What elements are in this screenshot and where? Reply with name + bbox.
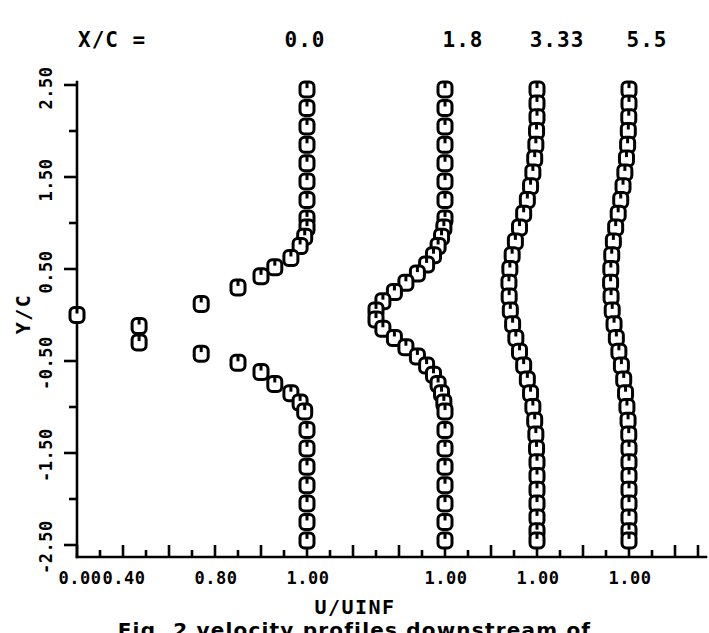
- square-u-marker: [438, 82, 452, 97]
- x-tick-label-2: 0.80: [195, 568, 238, 588]
- data-markers: [70, 82, 636, 548]
- square-u-marker: [438, 478, 452, 493]
- square-u-marker: [300, 156, 314, 171]
- square-u-marker: [438, 423, 452, 438]
- figure-wake-velocity-profiles: X/C = 0.0 1.8 3.33 5.5: [0, 0, 709, 633]
- square-u-marker: [132, 335, 146, 350]
- y-tick-label-2.50: 2.50: [36, 66, 56, 110]
- square-u-marker: [231, 280, 245, 295]
- square-u-marker: [530, 533, 544, 548]
- square-u-marker: [300, 459, 314, 474]
- square-u-marker: [438, 441, 452, 456]
- square-u-marker: [438, 404, 452, 419]
- square-u-marker: [194, 346, 208, 361]
- profile-series-2: [502, 82, 544, 548]
- y-tick-label-1.50: 1.50: [36, 158, 56, 202]
- figure-caption: Fig. 2 velocity profiles downstream of: [0, 618, 709, 633]
- profile-series-3: [604, 82, 636, 548]
- square-u-marker: [300, 533, 314, 548]
- square-u-marker: [298, 404, 312, 419]
- square-u-marker: [300, 82, 314, 97]
- y-axis-title: Y/C: [11, 284, 35, 344]
- y-tick-label--0.50: -0.50: [36, 338, 56, 390]
- x-tick-label-6: 1.00: [609, 568, 652, 588]
- square-u-marker: [300, 101, 314, 116]
- square-u-marker: [438, 515, 452, 530]
- square-u-marker: [438, 496, 452, 511]
- square-u-marker: [70, 308, 84, 323]
- x-tick-label-4: 1.00: [425, 568, 468, 588]
- square-u-marker: [268, 377, 282, 392]
- square-u-marker: [300, 496, 314, 511]
- square-u-marker: [284, 250, 298, 265]
- square-u-marker: [300, 423, 314, 438]
- square-u-marker: [300, 515, 314, 530]
- square-u-marker: [268, 260, 282, 275]
- x-tick-label-3: 1.00: [287, 568, 330, 588]
- profile-series-1: [369, 82, 452, 548]
- x-axis-ticks: [77, 545, 698, 557]
- square-u-marker: [300, 193, 314, 208]
- y-tick-label--2.50: -2.50: [36, 522, 56, 574]
- x-axis-title: U/UINF: [314, 595, 395, 619]
- x-tick-label-0: 0.00: [59, 568, 102, 588]
- square-u-marker: [438, 137, 452, 152]
- square-u-marker: [300, 441, 314, 456]
- square-u-marker: [622, 533, 636, 548]
- y-tick-label--1.50: -1.50: [36, 430, 56, 482]
- square-u-marker: [231, 355, 245, 370]
- square-u-marker: [438, 193, 452, 208]
- square-u-marker: [438, 459, 452, 474]
- square-u-marker: [438, 156, 452, 171]
- square-u-marker: [194, 296, 208, 311]
- square-u-marker: [438, 119, 452, 134]
- x-tick-label-1: 0.40: [103, 568, 146, 588]
- square-u-marker: [438, 174, 452, 189]
- square-u-marker: [300, 174, 314, 189]
- y-tick-label-0.50: 0.50: [36, 250, 56, 294]
- square-u-marker: [132, 319, 146, 334]
- square-u-marker: [300, 137, 314, 152]
- x-tick-label-5: 1.00: [517, 568, 560, 588]
- square-u-marker: [300, 478, 314, 493]
- square-u-marker: [254, 269, 268, 284]
- square-u-marker: [254, 365, 268, 380]
- square-u-marker: [438, 533, 452, 548]
- profile-series-0: [70, 82, 314, 548]
- plot-canvas: [0, 0, 709, 633]
- square-u-marker: [300, 119, 314, 134]
- square-u-marker: [438, 101, 452, 116]
